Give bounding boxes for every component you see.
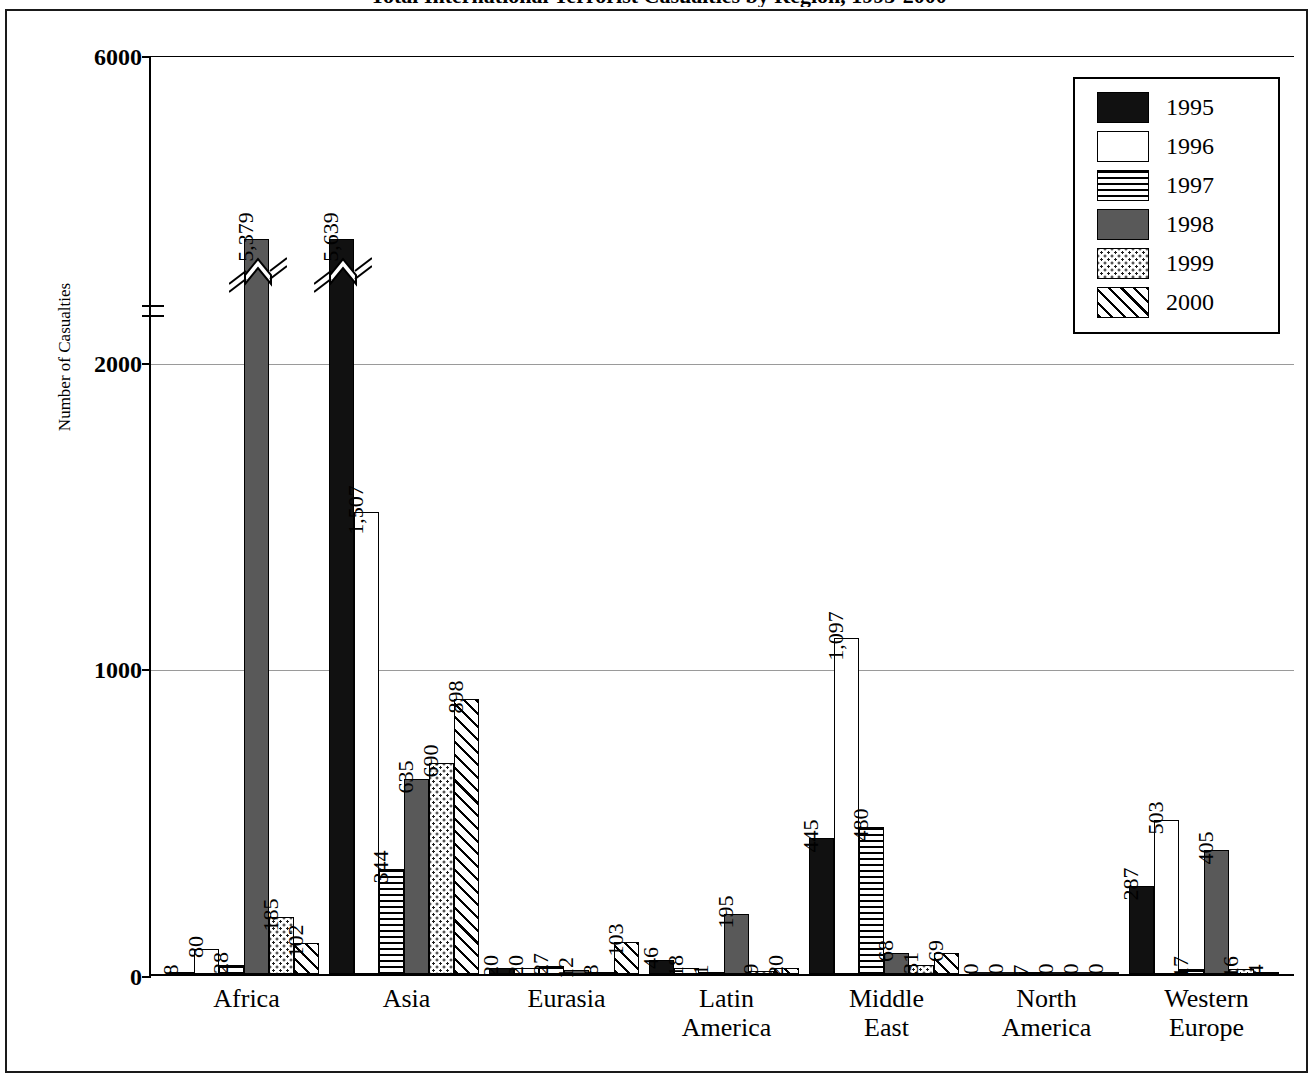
bar-slot-1998[interactable]: 195 xyxy=(724,57,749,974)
bar-slot-1998[interactable]: 5,379 xyxy=(244,57,269,974)
bar-slot-1998[interactable]: 68 xyxy=(884,57,909,974)
bar-slot-1996[interactable]: 1,507 xyxy=(354,57,379,974)
bar-slot-1995[interactable]: 20 xyxy=(489,57,514,974)
x-axis-category-label: Middle East xyxy=(809,974,964,1042)
x-axis-category-label: Asia xyxy=(329,974,484,1013)
bar-slot-2000[interactable]: 898 xyxy=(454,57,479,974)
bar-2000[interactable]: 898 xyxy=(454,699,479,974)
legend-swatch-1996 xyxy=(1097,131,1149,162)
bar-1996[interactable]: 1,507 xyxy=(354,512,379,974)
x-axis-category-label: Western Europe xyxy=(1129,974,1284,1042)
bar-slot-1995[interactable]: 8 xyxy=(169,57,194,974)
bar-1997[interactable]: 344 xyxy=(379,869,404,974)
bar-slot-1998[interactable]: 12 xyxy=(564,57,589,974)
bar-slot-1999[interactable]: 8 xyxy=(589,57,614,974)
figure-frame: Total International Terrorist Casualties… xyxy=(5,9,1308,1073)
legend-item-1999[interactable]: 1999 xyxy=(1097,244,1278,283)
bar-slot-1995[interactable]: 0 xyxy=(969,57,994,974)
bar-slot-1996[interactable]: 80 xyxy=(194,57,219,974)
bar-slot-1998[interactable]: 0 xyxy=(1044,57,1069,974)
bar-slot-1996[interactable]: 0 xyxy=(994,57,1019,974)
bar-slot-1999[interactable]: 31 xyxy=(909,57,934,974)
bar-value-label: 344 xyxy=(370,850,392,883)
legend-label-1995: 1995 xyxy=(1166,94,1214,121)
bar-group-asia: 5,6391,507344635690898Asia xyxy=(329,57,484,974)
y-tick-1000: 1000 xyxy=(94,657,142,684)
bar-value-label: 0 xyxy=(985,964,1007,975)
x-axis-category-label: North America xyxy=(969,974,1124,1042)
y-tick-mark-1000 xyxy=(142,669,151,671)
bar-value-label: 46 xyxy=(640,947,662,969)
bar-value-label: 5,639 xyxy=(320,212,342,262)
bar-slot-2000[interactable]: 20 xyxy=(774,57,799,974)
bars: 46181195920 xyxy=(649,57,804,974)
bar-2000[interactable]: 69 xyxy=(934,953,959,974)
bar-slot-1995[interactable]: 46 xyxy=(649,57,674,974)
bar-slot-1999[interactable]: 9 xyxy=(749,57,774,974)
chart-title: Total International Terrorist Casualties… xyxy=(7,0,1310,7)
bars: 4451,097480683169 xyxy=(809,57,964,974)
y-tick-mark-0 xyxy=(142,976,151,978)
bar-slot-1999[interactable]: 690 xyxy=(429,57,454,974)
bar-1995[interactable]: 287 xyxy=(1129,886,1154,974)
bars: 880285,379185102 xyxy=(169,57,324,974)
bar-slot-2000[interactable]: 69 xyxy=(934,57,959,974)
bar-1999[interactable]: 31 xyxy=(909,965,934,975)
x-axis-category-label: Eurasia xyxy=(489,974,644,1013)
bar-group-middle-east: 4451,097480683169Middle East xyxy=(809,57,964,974)
bar-value-label: 0 xyxy=(1060,964,1082,975)
legend-swatch-2000 xyxy=(1097,287,1149,318)
bar-value-label: 503 xyxy=(1145,801,1167,834)
bar-group-eurasia: 202027128103Eurasia xyxy=(489,57,644,974)
bar-slot-1997[interactable]: 480 xyxy=(859,57,884,974)
legend-item-1996[interactable]: 1996 xyxy=(1097,127,1278,166)
bar-1998[interactable]: 5,379 xyxy=(244,239,269,974)
bars: 5,6391,507344635690898 xyxy=(329,57,484,974)
bar-slot-2000[interactable]: 102 xyxy=(294,57,319,974)
bar-slot-1998[interactable]: 635 xyxy=(404,57,429,974)
bar-1995[interactable]: 5,639 xyxy=(329,239,354,974)
bar-slot-1999[interactable]: 185 xyxy=(269,57,294,974)
bar-value-label: 635 xyxy=(395,761,417,794)
legend-item-1997[interactable]: 1997 xyxy=(1097,166,1278,205)
x-axis-category-label: Latin America xyxy=(649,974,804,1042)
bar-value-label: 68 xyxy=(875,940,897,962)
bar-2000[interactable]: 102 xyxy=(294,943,319,974)
legend-swatch-1998 xyxy=(1097,209,1149,240)
bar-value-label: 1,097 xyxy=(825,611,847,661)
legend-label-1998: 1998 xyxy=(1166,211,1214,238)
bar-1999[interactable]: 690 xyxy=(429,763,454,974)
bar-2000[interactable]: 103 xyxy=(614,942,639,974)
bar-value-label: 898 xyxy=(445,680,467,713)
bar-1996[interactable]: 1,097 xyxy=(834,638,859,974)
bar-value-label: 31 xyxy=(900,952,922,974)
legend-item-1998[interactable]: 1998 xyxy=(1097,205,1278,244)
bar-slot-2000[interactable]: 103 xyxy=(614,57,639,974)
bar-value-label: 80 xyxy=(185,936,207,958)
y-tick-mark-6000 xyxy=(142,56,151,58)
bar-1997[interactable]: 28 xyxy=(219,965,244,974)
bar-slot-1997[interactable]: 28 xyxy=(219,57,244,974)
bar-value-label: 0 xyxy=(1085,964,1107,975)
bar-slot-1997[interactable]: 344 xyxy=(379,57,404,974)
bar-value-label: 27 xyxy=(530,953,552,975)
bar-value-label: 0 xyxy=(960,964,982,975)
bar-value-label: 480 xyxy=(850,808,872,841)
bar-slot-1995[interactable]: 445 xyxy=(809,57,834,974)
bar-slot-1996[interactable]: 20 xyxy=(514,57,539,974)
bar-slot-1997[interactable]: 7 xyxy=(1019,57,1044,974)
bar-value-label: 102 xyxy=(285,924,307,957)
legend-label-1996: 1996 xyxy=(1166,133,1214,160)
bar-value-label: 0 xyxy=(1035,964,1057,975)
bar-slot-1996[interactable]: 18 xyxy=(674,57,699,974)
bar-slot-1997[interactable]: 27 xyxy=(539,57,564,974)
bar-value-label: 103 xyxy=(605,924,627,957)
bar-value-label: 690 xyxy=(420,744,442,777)
bar-value-label: 445 xyxy=(800,819,822,852)
legend-item-2000[interactable]: 2000 xyxy=(1097,283,1278,322)
bar-1998[interactable]: 635 xyxy=(404,779,429,974)
bar-1996[interactable]: 503 xyxy=(1154,820,1179,974)
bar-slot-1997[interactable]: 1 xyxy=(699,57,724,974)
bar-1995[interactable]: 445 xyxy=(809,838,834,974)
legend-item-1995[interactable]: 1995 xyxy=(1097,88,1278,127)
